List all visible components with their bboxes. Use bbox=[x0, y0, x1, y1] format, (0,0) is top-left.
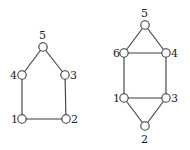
node-label-5: 5 bbox=[141, 7, 148, 20]
node-5 bbox=[39, 43, 47, 51]
edge-2-3 bbox=[145, 98, 166, 126]
node-label-4: 4 bbox=[171, 47, 178, 60]
node-1 bbox=[18, 115, 26, 123]
node-label-2: 2 bbox=[141, 133, 148, 146]
node-label-3: 3 bbox=[70, 69, 77, 82]
node-label-4: 4 bbox=[10, 69, 17, 82]
graph-diagram: 12345123456 bbox=[0, 0, 190, 150]
edge-2-3 bbox=[65, 75, 66, 119]
edge-6-5 bbox=[124, 25, 145, 53]
node-label-5: 5 bbox=[39, 29, 46, 42]
node-2 bbox=[62, 115, 70, 123]
node-2 bbox=[141, 122, 149, 130]
node-label-3: 3 bbox=[171, 92, 178, 105]
node-4 bbox=[162, 49, 170, 57]
node-label-2: 2 bbox=[71, 113, 78, 126]
right-graph: 123456 bbox=[113, 7, 178, 146]
edge-4-5 bbox=[22, 47, 43, 75]
left-graph: 12345 bbox=[10, 29, 78, 126]
node-1 bbox=[120, 94, 128, 102]
node-label-1: 1 bbox=[11, 113, 18, 126]
node-3 bbox=[61, 71, 69, 79]
edge-3-5 bbox=[43, 47, 65, 75]
diagram-svg: 12345123456 bbox=[0, 0, 190, 150]
node-5 bbox=[141, 21, 149, 29]
edge-4-5 bbox=[145, 25, 166, 53]
edge-1-2 bbox=[124, 98, 145, 126]
node-label-6: 6 bbox=[113, 47, 120, 60]
node-3 bbox=[162, 94, 170, 102]
node-label-1: 1 bbox=[113, 92, 120, 105]
node-4 bbox=[18, 71, 26, 79]
node-6 bbox=[120, 49, 128, 57]
